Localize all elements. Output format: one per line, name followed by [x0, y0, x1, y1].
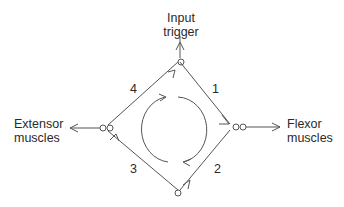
input-trigger-label: Input trigger [153, 11, 209, 39]
neuron-right-outer-icon [240, 124, 246, 130]
edge-label-1: 1 [212, 82, 219, 96]
extensor-muscles-label: Extensor muscles [14, 117, 72, 145]
neuron-left-outer-icon [100, 125, 106, 131]
synapse-fork-left-icon [110, 134, 119, 141]
synapse-fork-bottom-icon [183, 180, 190, 189]
extensor-label-line1: Extensor [14, 117, 72, 131]
neuron-left-inner-icon [107, 125, 113, 131]
synapse-fork-top-icon [168, 70, 175, 78]
neuron-right-inner-icon [233, 124, 239, 130]
edge-label-2: 2 [214, 162, 221, 176]
edge-label-3: 3 [130, 162, 137, 176]
cycle-arc-right [178, 97, 207, 162]
flexor-label-line2: muscles [287, 131, 343, 145]
flexor-label-line1: Flexor [287, 117, 343, 131]
input-label-line2: trigger [153, 25, 209, 39]
extensor-label-line2: muscles [14, 131, 72, 145]
neuron-top-icon [178, 59, 184, 65]
edge-label-4: 4 [130, 82, 137, 96]
flexor-muscles-label: Flexor muscles [287, 117, 343, 145]
edge-1 [180, 62, 230, 124]
neuron-bottom-icon [175, 190, 181, 196]
input-label-line1: Input [153, 11, 209, 25]
edge-4 [108, 62, 178, 125]
cycle-arc-left [141, 97, 168, 162]
